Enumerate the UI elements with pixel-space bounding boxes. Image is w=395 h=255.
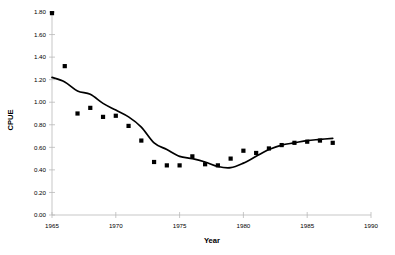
chart-container: 0.000.200.400.600.801.001.201.401.601.80… (0, 0, 395, 255)
data-point-marker (75, 111, 79, 115)
data-point-marker (254, 151, 258, 155)
x-tick-label: 1970 (109, 222, 123, 229)
data-point-marker (63, 64, 67, 68)
data-point-marker (331, 141, 335, 145)
x-tick-label: 1975 (173, 222, 187, 229)
data-point-marker (139, 138, 143, 142)
data-point-marker (318, 138, 322, 142)
y-tick-label: 1.20 (34, 76, 47, 83)
data-point-marker (190, 154, 194, 158)
cpue-vs-year-chart: 0.000.200.400.600.801.001.201.401.601.80… (0, 0, 395, 255)
data-point-marker (88, 106, 92, 110)
y-tick-label: 0.80 (34, 121, 47, 128)
y-tick-label: 0.20 (34, 189, 47, 196)
x-tick-label: 1985 (300, 222, 314, 229)
x-tick-label: 1980 (237, 222, 251, 229)
x-tick-label: 1965 (45, 222, 59, 229)
data-point-marker (114, 114, 118, 118)
data-point-marker (241, 149, 245, 153)
y-tick-label: 1.40 (34, 53, 47, 60)
y-tick-label: 1.80 (34, 8, 47, 15)
data-point-marker (203, 162, 207, 166)
data-point-marker (50, 11, 54, 15)
data-point-marker (178, 163, 182, 167)
data-point-marker (305, 140, 309, 144)
data-point-marker (292, 141, 296, 145)
y-axis-title: CPUE (6, 109, 15, 130)
x-axis-title: Year (204, 236, 220, 245)
data-point-marker (101, 115, 105, 119)
y-tick-label: 1.60 (34, 31, 47, 38)
y-tick-label: 0.40 (34, 166, 47, 173)
y-tick-label: 1.00 (34, 98, 47, 105)
data-point-marker (267, 146, 271, 150)
y-tick-label: 0.60 (34, 144, 47, 151)
plot-background (52, 12, 370, 215)
data-point-marker (280, 143, 284, 147)
data-point-marker (165, 163, 169, 167)
data-point-marker (229, 157, 233, 161)
data-point-marker (216, 163, 220, 167)
data-point-marker (152, 160, 156, 164)
x-tick-label: 1990 (364, 222, 378, 229)
data-point-marker (126, 124, 130, 128)
y-tick-label: 0.00 (34, 211, 47, 218)
